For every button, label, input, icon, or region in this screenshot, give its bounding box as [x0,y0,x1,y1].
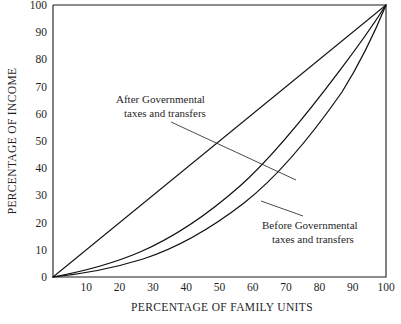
y-tick-label: 0 [41,271,47,283]
x-tick-label: 50 [214,281,226,293]
x-tick-label: 30 [147,281,159,293]
y-tick-label: 50 [36,135,48,147]
y-tick-label: 40 [36,162,48,174]
annotation-before-line2: taxes and transfers [272,233,354,245]
y-tick-label: 100 [30,0,48,11]
chart-canvas: 100 90 80 70 60 50 40 30 20 10 0 10 20 3… [0,0,401,324]
x-axis-title: PERCENTAGE OF FAMILY UNITS [131,301,313,313]
x-axis-tick-labels: 10 20 30 40 50 60 70 80 90 100 [81,281,395,293]
annotation-after-governmental: After Governmental taxes and transfers [116,93,206,119]
y-axis-title: PERCENTAGE OF INCOME [6,68,18,215]
annotation-after-line1: After Governmental [116,93,205,105]
x-tick-label: 10 [81,281,93,293]
leader-line-before [261,201,303,216]
y-axis-tick-labels: 100 90 80 70 60 50 40 30 20 10 0 [30,0,48,283]
y-tick-label: 70 [36,81,48,93]
y-tick-label: 10 [36,244,48,256]
x-tick-label: 80 [314,281,326,293]
annotation-before-governmental: Before Governmental taxes and transfers [262,219,358,245]
annotation-before-line1: Before Governmental [262,219,358,231]
y-tick-label: 20 [36,217,48,229]
x-tick-label: 70 [280,281,292,293]
x-tick-label: 100 [377,281,395,293]
x-tick-label: 40 [180,281,192,293]
lorenz-curve-figure: 100 90 80 70 60 50 40 30 20 10 0 10 20 3… [0,0,401,324]
x-tick-label: 20 [114,281,126,293]
x-tick-label: 60 [247,281,259,293]
y-tick-label: 30 [36,189,48,201]
y-tick-label: 90 [36,26,48,38]
x-tick-label: 90 [347,281,359,293]
y-tick-label: 60 [36,108,48,120]
y-tick-label: 80 [36,53,48,65]
annotation-after-line2: taxes and transfers [124,107,206,119]
leader-line-after [171,122,296,180]
